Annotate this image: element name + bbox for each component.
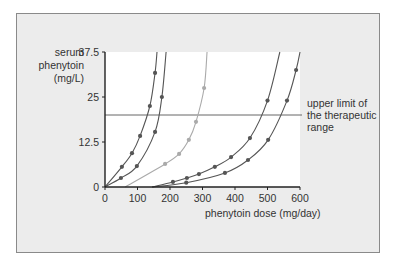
curve-2-point bbox=[135, 164, 139, 168]
y-tick-label: 12.5 bbox=[79, 136, 100, 148]
curve-4-point bbox=[248, 136, 252, 140]
curve-4-point bbox=[229, 155, 233, 159]
chart-canvas: 0100200300400500600012.52537.5 bbox=[0, 0, 395, 266]
curve-5-point bbox=[223, 171, 227, 175]
x-tick-label: 400 bbox=[226, 192, 244, 204]
curve-5-point bbox=[246, 158, 250, 162]
curve-1-point bbox=[138, 134, 142, 138]
curve-3-point bbox=[177, 152, 181, 156]
curve-5-point bbox=[285, 99, 289, 103]
x-tick-label: 600 bbox=[291, 192, 309, 204]
curve-4-point bbox=[265, 99, 269, 103]
curve-1-point bbox=[120, 165, 124, 169]
curve-5-point bbox=[294, 68, 298, 72]
curve-3-point bbox=[194, 120, 198, 124]
curve-3-point bbox=[202, 86, 206, 90]
x-tick-label: 300 bbox=[194, 192, 212, 204]
x-tick-label: 100 bbox=[129, 192, 147, 204]
curve-5-point bbox=[184, 181, 188, 185]
curve-5-point bbox=[266, 138, 270, 142]
x-tick-label: 0 bbox=[102, 192, 108, 204]
curve-4-point bbox=[171, 180, 175, 184]
y-tick-label: 25 bbox=[87, 91, 99, 103]
curve-3-point bbox=[187, 138, 191, 142]
curve-1-point bbox=[153, 71, 157, 75]
x-tick-label: 200 bbox=[161, 192, 179, 204]
curve-2-point bbox=[153, 130, 157, 134]
plot-area bbox=[105, 52, 300, 187]
curve-2-point bbox=[160, 95, 164, 99]
curve-3-point bbox=[163, 162, 167, 166]
y-tick-label: 0 bbox=[93, 181, 99, 193]
curve-1-point bbox=[148, 104, 152, 108]
curve-1-point bbox=[130, 151, 134, 155]
curve-4-point bbox=[197, 172, 201, 176]
curve-4-point bbox=[185, 176, 189, 180]
x-tick-label: 500 bbox=[259, 192, 277, 204]
curve-4-point bbox=[213, 165, 217, 169]
y-tick-label: 37.5 bbox=[79, 46, 100, 58]
curve-2-point bbox=[119, 176, 123, 180]
